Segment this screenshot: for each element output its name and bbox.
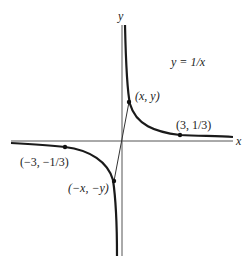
- equation-label: y = 1/x: [170, 55, 206, 69]
- point-neg3-negthird: [63, 145, 67, 149]
- point-negx-negy: [112, 179, 116, 183]
- y-axis-label: y: [117, 9, 124, 23]
- label-point-3-third: (3, 1/3): [176, 118, 211, 132]
- label-point-negx-negy: (−x, −y): [68, 181, 109, 195]
- point-xy: [127, 100, 131, 104]
- point-3-third: [178, 133, 182, 137]
- x-axis-label: x: [235, 134, 242, 148]
- hyperbola-diagram: y x y = 1/x (x, y) (3, 1/3) (−3, −1/3) (…: [0, 0, 251, 267]
- label-point-xy: (x, y): [135, 89, 160, 103]
- label-point-neg3-negthird: (−3, −1/3): [20, 155, 69, 169]
